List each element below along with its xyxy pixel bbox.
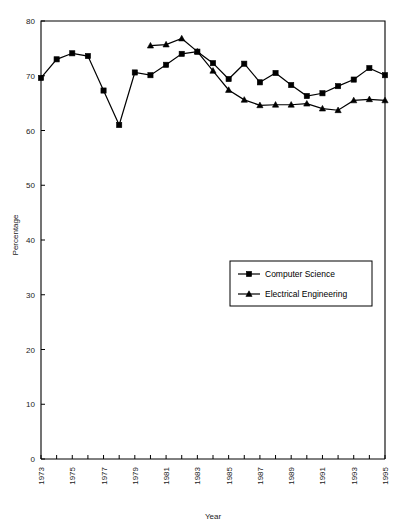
legend-marker-icon: [246, 271, 251, 276]
data-point-marker: [70, 51, 75, 56]
y-axis-title: Percentage: [11, 214, 20, 255]
x-tick-label: 1991: [318, 466, 327, 484]
legend-label: Computer Science: [265, 269, 335, 279]
data-point-marker: [163, 62, 168, 67]
data-point-marker: [132, 70, 137, 75]
x-tick-label: 1975: [68, 466, 77, 484]
x-tick-label: 1987: [256, 466, 265, 484]
data-point-marker: [117, 122, 122, 127]
data-point-marker: [273, 70, 278, 75]
data-point-marker: [226, 76, 231, 81]
y-tick-label: 30: [26, 291, 35, 300]
y-tick-label: 10: [26, 400, 35, 409]
y-tick-label: 0: [31, 455, 36, 464]
legend-label: Electrical Engineering: [265, 289, 347, 299]
data-point-marker: [101, 88, 106, 93]
x-axis-title: Year: [205, 512, 222, 521]
x-tick-label: 1995: [381, 466, 390, 484]
data-point-marker: [242, 61, 247, 66]
x-tick-label: 1989: [287, 466, 296, 484]
y-tick-label: 80: [26, 17, 35, 26]
x-tick-label: 1981: [162, 466, 171, 484]
data-point-marker: [54, 57, 59, 62]
y-tick-label: 60: [26, 127, 35, 136]
y-tick-label: 20: [26, 346, 35, 355]
data-point-marker: [382, 73, 387, 78]
data-point-marker: [257, 80, 262, 85]
chart-container: 01020304050607080 1973197519771979198119…: [0, 0, 402, 524]
x-tick-label: 1973: [37, 466, 46, 484]
x-tick-label: 1983: [193, 466, 202, 484]
y-tick-label: 70: [26, 72, 35, 81]
y-tick-label: 50: [26, 181, 35, 190]
data-point-marker: [85, 53, 90, 58]
data-point-marker: [179, 51, 184, 56]
x-tick-label: 1979: [131, 466, 140, 484]
chart-legend: Computer ScienceElectrical Engineering: [230, 261, 372, 306]
legend-box: [230, 261, 372, 306]
data-point-marker: [148, 73, 153, 78]
data-point-marker: [210, 61, 215, 66]
data-point-marker: [38, 75, 43, 80]
data-point-marker: [289, 82, 294, 87]
data-point-marker: [304, 93, 309, 98]
x-tick-label: 1977: [100, 466, 109, 484]
data-point-marker: [335, 84, 340, 89]
data-point-marker: [351, 77, 356, 82]
data-point-marker: [367, 65, 372, 70]
x-tick-label: 1993: [350, 466, 359, 484]
y-tick-label: 40: [26, 236, 35, 245]
data-point-marker: [320, 91, 325, 96]
x-tick-label: 1985: [225, 466, 234, 484]
line-chart: 01020304050607080 1973197519771979198119…: [0, 0, 402, 524]
